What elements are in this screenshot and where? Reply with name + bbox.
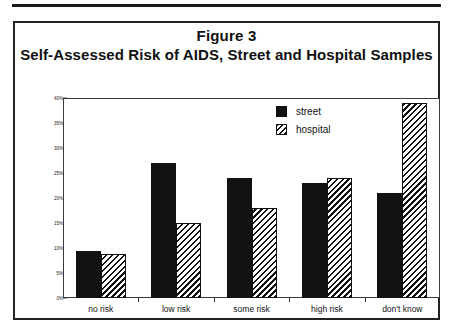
legend-item-label: hospital	[296, 124, 330, 135]
x-axis-tick-label: no risk	[88, 304, 113, 314]
bar-hospital	[176, 223, 201, 298]
x-axis-tick-label: don't know	[382, 304, 422, 314]
x-axis-tick-mark	[289, 298, 290, 302]
bar-street	[302, 183, 327, 298]
figure-number: Figure 3	[15, 26, 438, 45]
x-axis-tick-label: some risk	[233, 304, 269, 314]
top-rule-divider	[12, 4, 441, 7]
x-axis-group: don't know	[365, 298, 440, 313]
legend-item-label: street	[296, 106, 321, 117]
figure-title: Self-Assessed Risk of AIDS, Street and H…	[15, 45, 438, 65]
bar-street	[151, 163, 176, 298]
bar-hospital	[402, 103, 427, 298]
figure-page: Figure 3 Self-Assessed Risk of AIDS, Str…	[0, 0, 453, 335]
bar-hospital	[101, 254, 126, 298]
legend-item: hospital	[276, 124, 330, 135]
diagonal-hatch-square-icon	[276, 124, 287, 135]
chart-legend: streethospital	[276, 106, 330, 135]
x-axis-group: some risk	[214, 298, 289, 313]
bar-street	[377, 193, 402, 298]
bar-group	[138, 98, 213, 298]
figure-caption: Figure 3 Self-Assessed Risk of AIDS, Str…	[15, 26, 438, 65]
y-axis-tick-label: 15%	[54, 221, 63, 226]
x-axis-tick-label: low risk	[162, 304, 190, 314]
x-axis: no risklow risksome riskhigh riskdon't k…	[63, 298, 440, 313]
bar-hospital	[252, 208, 277, 298]
y-axis: 0%5%10%15%20%25%30%35%40%	[50, 98, 63, 298]
solid-black-square-icon	[276, 106, 287, 117]
y-axis-tick-label: 20%	[54, 196, 63, 201]
y-axis-tick-label: 35%	[54, 121, 63, 126]
bar-groups	[63, 98, 440, 298]
bar-group	[365, 98, 440, 298]
bar-group	[63, 98, 138, 298]
bar-hospital	[327, 178, 352, 298]
x-axis-tick-mark	[365, 298, 366, 302]
y-axis-tick-label: 10%	[54, 246, 63, 251]
x-axis-group: high risk	[289, 298, 364, 313]
y-axis-tick-label: 30%	[54, 146, 63, 151]
chart-plot-area: 0%5%10%15%20%25%30%35%40% no risklow ris…	[50, 98, 440, 313]
legend-item: street	[276, 106, 330, 117]
figure-container: Figure 3 Self-Assessed Risk of AIDS, Str…	[13, 21, 440, 320]
x-axis-tick-label: high risk	[311, 304, 343, 314]
x-axis-group: low risk	[138, 298, 213, 313]
bar-street	[76, 251, 101, 299]
x-axis-group: no risk	[63, 298, 138, 313]
y-axis-tick-label: 25%	[54, 171, 63, 176]
y-axis-tick-label: 40%	[54, 96, 63, 101]
x-axis-tick-mark	[214, 298, 215, 302]
bar-street	[227, 178, 252, 298]
x-axis-tick-mark	[138, 298, 139, 302]
